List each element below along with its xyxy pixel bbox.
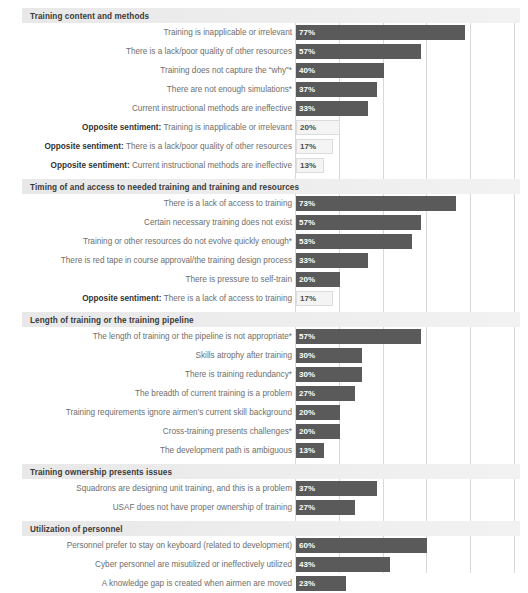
bar-row-label: There is pressure to self-train <box>186 275 296 283</box>
bar-value-label: 33% <box>299 257 315 265</box>
value-bar[interactable]: 37% <box>296 82 377 97</box>
value-bar[interactable]: 77% <box>296 25 465 40</box>
bar-row[interactable]: The length of training or the pipeline i… <box>0 327 528 346</box>
value-bar[interactable]: 53% <box>296 234 412 249</box>
bar-row-label: Opposite sentiment: There is a lack of a… <box>82 294 296 302</box>
bar-row-label: There is a lack of access to training <box>164 199 296 207</box>
bar-row[interactable]: Opposite sentiment: There is a lack/poor… <box>0 137 528 156</box>
bar-value-label: 53% <box>299 238 315 246</box>
bar-row-label: Training requirements ignore airmen’s cu… <box>66 408 296 416</box>
bar-row-label: Current instructional methods are ineffe… <box>132 104 296 112</box>
value-bar[interactable]: 20% <box>296 272 340 287</box>
section-header: Utilization of personnel <box>22 521 520 536</box>
bar-row-label: The development path is ambiguous <box>160 446 296 454</box>
opposite-sentiment-bar[interactable]: 20% <box>296 120 340 135</box>
value-bar[interactable]: 27% <box>296 386 355 401</box>
bar-row[interactable]: Training requirements ignore airmen’s cu… <box>0 403 528 422</box>
bar-value-label: 30% <box>299 352 315 360</box>
opposite-sentiment-bar[interactable]: 13% <box>296 158 324 173</box>
bar-value-label: 20% <box>299 409 315 417</box>
bar-row[interactable]: There is a lack of access to training73% <box>0 194 528 213</box>
value-bar[interactable]: 33% <box>296 253 368 268</box>
opposite-sentiment-bar[interactable]: 17% <box>296 291 333 306</box>
bar-value-label: 13% <box>299 447 315 455</box>
section-header: Training content and methods <box>22 8 520 23</box>
bar-row-label: Training or other resources do not evolv… <box>83 237 296 245</box>
bar-value-label: 73% <box>299 200 315 208</box>
bar-value-label: 13% <box>300 162 316 170</box>
bar-row-label: USAF does not have proper ownership of t… <box>113 503 296 511</box>
bar-row[interactable]: Cyber personnel are misutilized or ineff… <box>0 555 528 574</box>
section-header-label: Timing of and access to needed training … <box>30 182 299 191</box>
bar-row-label: Cyber personnel are misutilized or ineff… <box>95 560 296 568</box>
bar-row-label: There is a lack/poor quality of other re… <box>126 47 296 55</box>
bar-row[interactable]: Squadrons are designing unit training, a… <box>0 479 528 498</box>
bar-row[interactable]: Training or other resources do not evolv… <box>0 232 528 251</box>
bar-row[interactable]: Current instructional methods are ineffe… <box>0 99 528 118</box>
value-bar[interactable]: 60% <box>296 538 427 553</box>
bar-row-label: A knowledge gap is created when airmen a… <box>102 579 296 587</box>
bar-row-label-text: There is a lack of access to training <box>164 293 292 302</box>
section-header: Length of training or the training pipel… <box>22 312 520 327</box>
bar-row[interactable]: Skills atrophy after training30% <box>0 346 528 365</box>
value-bar[interactable]: 20% <box>296 405 340 420</box>
bar-value-label: 17% <box>300 295 316 303</box>
value-bar[interactable]: 23% <box>296 576 346 591</box>
bar-row-label-text: Current instructional methods are ineffe… <box>132 160 292 169</box>
value-bar[interactable]: 43% <box>296 557 390 572</box>
bar-row-label: Cross-training presents challenges* <box>163 427 296 435</box>
bar-row[interactable]: Certain necessary training does not exis… <box>0 213 528 232</box>
bar-value-label: 27% <box>299 390 315 398</box>
bar-row[interactable]: There is red tape in course approval/the… <box>0 251 528 270</box>
bar-row[interactable]: The development path is ambiguous13% <box>0 441 528 460</box>
bar-row-label: There is red tape in course approval/the… <box>61 256 296 264</box>
bar-value-label: 40% <box>299 67 315 75</box>
bar-row-label: Opposite sentiment: Current instructiona… <box>51 161 296 169</box>
bar-row-label: Skills atrophy after training <box>196 351 296 359</box>
bar-row[interactable]: Opposite sentiment: There is a lack of a… <box>0 289 528 308</box>
bar-row-label: Personnel prefer to stay on keyboard (re… <box>67 541 296 549</box>
bar-value-label: 27% <box>299 504 315 512</box>
bar-row-label: The length of training or the pipeline i… <box>93 332 296 340</box>
bar-row-label: Training is inapplicable or irrelevant <box>164 28 297 36</box>
bar-value-label: 30% <box>299 371 315 379</box>
opposite-sentiment-prefix: Opposite sentiment: <box>44 141 125 150</box>
bar-row[interactable]: Personnel prefer to stay on keyboard (re… <box>0 536 528 555</box>
opposite-sentiment-bar[interactable]: 17% <box>296 139 333 154</box>
bar-row[interactable]: There is training redundancy*30% <box>0 365 528 384</box>
bar-row[interactable]: There are not enough simulations*37% <box>0 80 528 99</box>
value-bar[interactable]: 37% <box>296 481 377 496</box>
value-bar[interactable]: 33% <box>296 101 368 116</box>
value-bar[interactable]: 30% <box>296 367 362 382</box>
value-bar[interactable]: 27% <box>296 500 355 515</box>
bar-row[interactable]: Cross-training presents challenges*20% <box>0 422 528 441</box>
value-bar[interactable]: 57% <box>296 215 421 230</box>
bar-row-label: Certain necessary training does not exis… <box>144 218 296 226</box>
value-bar[interactable]: 13% <box>296 443 324 458</box>
bar-row[interactable]: USAF does not have proper ownership of t… <box>0 498 528 517</box>
section-header-label: Training content and methods <box>30 11 149 20</box>
value-bar[interactable]: 57% <box>296 329 421 344</box>
bar-row[interactable]: Training does not capture the “why”*40% <box>0 61 528 80</box>
value-bar[interactable]: 30% <box>296 348 362 363</box>
bar-value-label: 20% <box>300 124 316 132</box>
opposite-sentiment-prefix: Opposite sentiment: <box>82 293 163 302</box>
bar-value-label: 20% <box>299 276 315 284</box>
bar-row-label: Opposite sentiment: Training is inapplic… <box>82 123 296 131</box>
bar-row-label: The breadth of current training is a pro… <box>135 389 296 397</box>
bar-row[interactable]: Opposite sentiment: Current instructiona… <box>0 156 528 175</box>
bar-row[interactable]: Opposite sentiment: Training is inapplic… <box>0 118 528 137</box>
bar-row[interactable]: There is a lack/poor quality of other re… <box>0 42 528 61</box>
bar-row[interactable]: The breadth of current training is a pro… <box>0 384 528 403</box>
bar-row[interactable]: A knowledge gap is created when airmen a… <box>0 574 528 593</box>
bar-value-label: 33% <box>299 105 315 113</box>
bar-row[interactable]: Training is inapplicable or irrelevant77… <box>0 23 528 42</box>
value-bar[interactable]: 40% <box>296 63 384 78</box>
value-bar[interactable]: 20% <box>296 424 340 439</box>
value-bar[interactable]: 73% <box>296 196 456 211</box>
bar-row-label: There are not enough simulations* <box>167 85 296 93</box>
bar-value-label: 57% <box>299 333 315 341</box>
bar-row[interactable]: There is pressure to self-train20% <box>0 270 528 289</box>
value-bar[interactable]: 57% <box>296 44 421 59</box>
